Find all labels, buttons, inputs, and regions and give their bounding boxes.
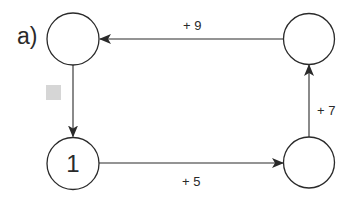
node-bottom-right[interactable] xyxy=(284,137,335,188)
edge-label-plus-7: + 7 xyxy=(317,104,335,117)
arithmetic-cycle-diagram: a) + 9 + 7 + 5 1 xyxy=(0,0,353,209)
diagram-canvas xyxy=(0,0,353,209)
part-label: a) xyxy=(17,25,37,48)
answer-marker-box xyxy=(46,85,61,100)
edge-label-plus-5: + 5 xyxy=(182,175,200,188)
node-top-left[interactable] xyxy=(47,13,99,65)
edge-label-plus-9: + 9 xyxy=(183,19,201,32)
node-top-right[interactable] xyxy=(284,14,335,65)
node-value-bottom-left: 1 xyxy=(47,152,99,176)
